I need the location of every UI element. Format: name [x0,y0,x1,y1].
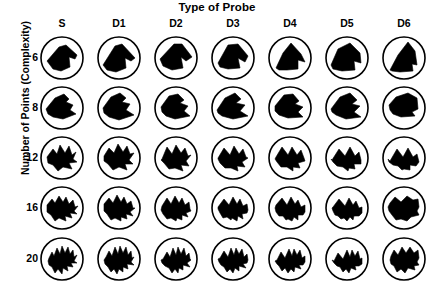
column-header-d6: D6 [384,17,424,29]
stimulus-polygon [161,247,191,273]
stimulus-polygon [332,198,362,221]
column-header-d4: D4 [270,17,310,29]
column-header-d5: D5 [327,17,367,29]
stimulus-cell-d4-16 [267,185,313,231]
stimulus-polygon [47,145,77,171]
stimulus-cell-s-6 [39,35,85,81]
stimulus-polygon [390,42,417,72]
stimulus-cell-d5-6 [324,35,370,81]
stimulus-polygon [103,44,135,72]
stimulus-grid-figure: Type of Probe Number of Points (Complexi… [0,0,434,295]
stimulus-cell-d1-12 [96,135,142,181]
stimulus-polygon [275,197,305,221]
stimulus-polygon [275,94,303,118]
stimulus-cell-d3-20 [210,236,256,282]
row-label-16: 16 [12,201,38,213]
stimulus-cell-d6-20 [381,236,427,282]
stimulus-polygon [275,147,305,171]
stimulus-polygon [103,93,134,120]
stimulus-polygon [389,93,418,117]
stimulus-cell-d2-8 [153,85,199,131]
stimulus-cell-d4-12 [267,135,313,181]
column-header-d2: D2 [156,17,196,29]
stimulus-cell-d5-16 [324,185,370,231]
row-label-6: 6 [12,51,38,63]
stimulus-polygon [160,44,192,70]
stimulus-polygon [332,250,362,273]
stimulus-polygon [331,93,361,119]
stimulus-cell-d4-6 [267,35,313,81]
stimulus-polygon [218,44,248,69]
stimulus-cell-s-8 [39,85,85,131]
stimulus-polygon [390,247,419,273]
stimulus-polygon [217,93,248,119]
stimulus-cell-d6-12 [381,135,427,181]
stimulus-polygon [276,43,305,70]
stimulus-polygon [275,249,305,273]
stimulus-polygon [104,195,135,221]
stimulus-cell-d4-20 [267,236,313,282]
stimulus-cell-s-16 [39,185,85,231]
stimulus-cell-d5-20 [324,236,370,282]
stimulus-polygon [46,94,76,119]
stimulus-cell-d6-6 [381,35,427,81]
stimulus-polygon [331,43,361,71]
stimulus-cell-d2-6 [153,35,199,81]
row-label-20: 20 [12,252,38,264]
stimulus-polygon [218,248,248,273]
column-header-d3: D3 [213,17,253,29]
row-label-12: 12 [12,151,38,163]
stimulus-cell-d6-8 [381,85,427,131]
stimulus-polygon [388,196,419,221]
stimulus-cell-d2-12 [153,135,199,181]
stimulus-polygon [218,146,248,171]
stimulus-polygon [218,197,248,221]
row-label-8: 8 [12,101,38,113]
stimulus-cell-d3-6 [210,35,256,81]
column-header-s: S [42,17,82,29]
stimulus-cell-d1-8 [96,85,142,131]
stimulus-cell-d1-16 [96,185,142,231]
stimulus-cell-s-20 [39,236,85,282]
stimulus-polygon [104,144,134,170]
stimulus-cell-d3-12 [210,135,256,181]
stimulus-polygon [47,196,78,221]
stimulus-cell-d2-16 [153,185,199,231]
stimulus-cell-s-12 [39,135,85,181]
stimulus-polygon [104,246,134,274]
stimulus-cell-d3-8 [210,85,256,131]
stimulus-polygon [388,148,419,170]
stimulus-polygon [161,94,190,119]
stimulus-cell-d5-8 [324,85,370,131]
stimulus-cell-d3-16 [210,185,256,231]
stimulus-cell-d5-12 [324,135,370,181]
figure-title: Type of Probe [0,1,434,13]
stimulus-cell-d6-16 [381,185,427,231]
stimulus-polygon [161,196,191,221]
column-header-d1: D1 [99,17,139,29]
stimulus-cell-d2-20 [153,236,199,282]
stimulus-polygon [47,45,77,71]
stimulus-polygon [161,145,191,171]
stimulus-polygon [48,246,77,274]
stimulus-cell-d4-8 [267,85,313,131]
stimulus-cell-d1-6 [96,35,142,81]
stimulus-polygon [331,147,361,171]
stimulus-cell-d1-20 [96,236,142,282]
